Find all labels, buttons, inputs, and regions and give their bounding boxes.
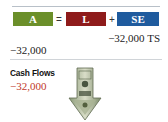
assets-box: A xyxy=(13,12,53,26)
equity-change: −32,000 TS xyxy=(108,32,160,44)
cash-flows-value: −32,000 xyxy=(10,80,46,92)
assets-label: A xyxy=(29,14,37,25)
middle-divider xyxy=(10,59,162,60)
top-divider xyxy=(12,6,160,7)
money-arrow-down-icon xyxy=(68,67,102,121)
plus-sign: + xyxy=(109,12,115,26)
equity-box: SE xyxy=(117,12,159,26)
equity-label: SE xyxy=(131,14,144,25)
liabilities-box: L xyxy=(66,12,106,26)
liabilities-label: L xyxy=(82,14,89,25)
equals-sign: = xyxy=(56,12,62,26)
cash-flows-title: Cash Flows xyxy=(10,67,55,78)
assets-change: −32,000 xyxy=(10,44,46,56)
